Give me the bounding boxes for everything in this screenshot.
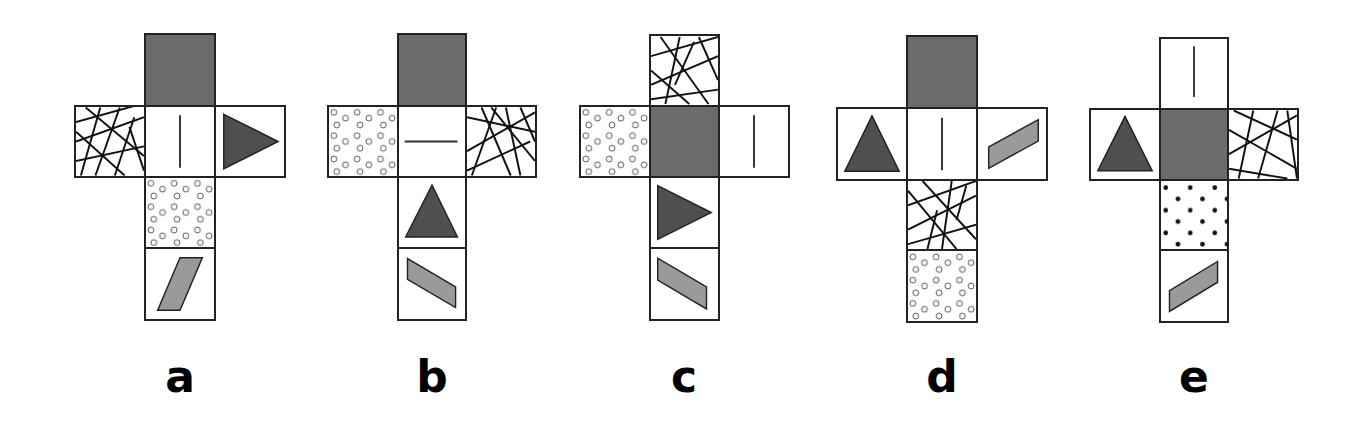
horizontal-line-icon: [399, 107, 465, 176]
parallelogram-icon: [399, 249, 465, 319]
face-triangle-right: [214, 105, 286, 178]
face-cross-hatch: [74, 105, 146, 178]
triangle-right-icon: [216, 107, 284, 176]
face-circles: [906, 249, 978, 323]
face-vertical-line: [718, 105, 790, 178]
face-circles: [579, 105, 651, 178]
face-solid-gray: [144, 33, 216, 107]
face-solid-gray: [397, 33, 467, 107]
face-cross-hatch: [465, 105, 537, 178]
cross-hatch-icon: [1229, 110, 1297, 179]
face-parallelogram: [976, 107, 1048, 181]
face-cross-hatch: [649, 34, 720, 107]
option-label-c: c: [644, 352, 724, 402]
vertical-line-icon: [146, 107, 214, 176]
option-label-a: a: [140, 352, 220, 402]
face-cross-hatch: [1227, 108, 1299, 181]
triangle-up-icon: [1091, 110, 1159, 179]
dots-icon: [1161, 181, 1227, 249]
circles-icon: [329, 107, 397, 176]
face-triangle-up: [836, 107, 908, 181]
face-solid-gray: [649, 105, 720, 178]
face-parallelogram: [397, 247, 467, 321]
face-vertical-line: [906, 107, 978, 181]
circles-icon: [146, 178, 214, 247]
face-circles: [327, 105, 399, 178]
face-vertical-line: [144, 105, 216, 178]
triangle-right-icon: [651, 178, 718, 247]
option-label-e: e: [1154, 352, 1234, 402]
parallelogram-icon: [978, 109, 1046, 179]
face-triangle-up: [397, 176, 467, 249]
face-dots: [1159, 179, 1229, 251]
face-triangle-right: [649, 176, 720, 249]
option-label-b: b: [392, 352, 472, 402]
cross-hatch-icon: [651, 36, 718, 105]
face-parallelogram: [1159, 249, 1229, 323]
face-solid-gray: [1159, 108, 1229, 181]
cross-hatch-icon: [908, 181, 976, 249]
circles-icon: [908, 251, 976, 321]
cross-hatch-icon: [467, 107, 535, 176]
face-circles: [144, 176, 216, 249]
face-cross-hatch: [906, 179, 978, 251]
face-parallelogram: [144, 247, 216, 321]
option-label-d: d: [902, 352, 982, 402]
parallelogram-icon: [651, 249, 718, 319]
parallelogram-icon: [1161, 251, 1227, 321]
parallelogram-icon: [146, 249, 214, 319]
circles-icon: [581, 107, 649, 176]
triangle-up-icon: [838, 109, 906, 179]
face-triangle-up: [1089, 108, 1161, 181]
face-parallelogram: [649, 247, 720, 321]
cross-hatch-icon: [76, 107, 144, 176]
face-horizontal-line: [397, 105, 467, 178]
vertical-line-icon: [1161, 39, 1227, 108]
vertical-line-icon: [720, 107, 788, 176]
vertical-line-icon: [908, 109, 976, 179]
triangle-up-icon: [399, 178, 465, 247]
face-vertical-line: [1159, 37, 1229, 110]
face-solid-gray: [906, 35, 978, 109]
